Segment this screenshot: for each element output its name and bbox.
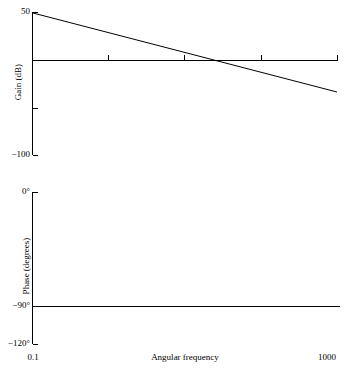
xaxis-label-left: 0.1 — [20, 352, 46, 362]
plot-canvas — [0, 0, 349, 371]
gain-ytick-label-minus100: −100 — [2, 149, 30, 159]
phase-plot-group — [32, 192, 340, 345]
phase-ytick-label-0: 0° — [10, 186, 30, 196]
xaxis-title: Angular frequency — [130, 352, 240, 362]
gain-curve — [33, 13, 337, 92]
gain-plot-group — [32, 12, 338, 156]
bode-plot-figure: 50 −100 Gain (dB) 0° −90° −120° Phase (d… — [0, 0, 349, 371]
phase-ytick-label-minus120: −120° — [0, 338, 30, 348]
phase-y-axis-title: Phase (degrees) — [21, 218, 31, 314]
xaxis-label-right: 1000 — [312, 352, 342, 362]
gain-y-axis-title: Gain (dB) — [13, 50, 23, 114]
gain-ytick-label-50: 50 — [12, 6, 30, 16]
